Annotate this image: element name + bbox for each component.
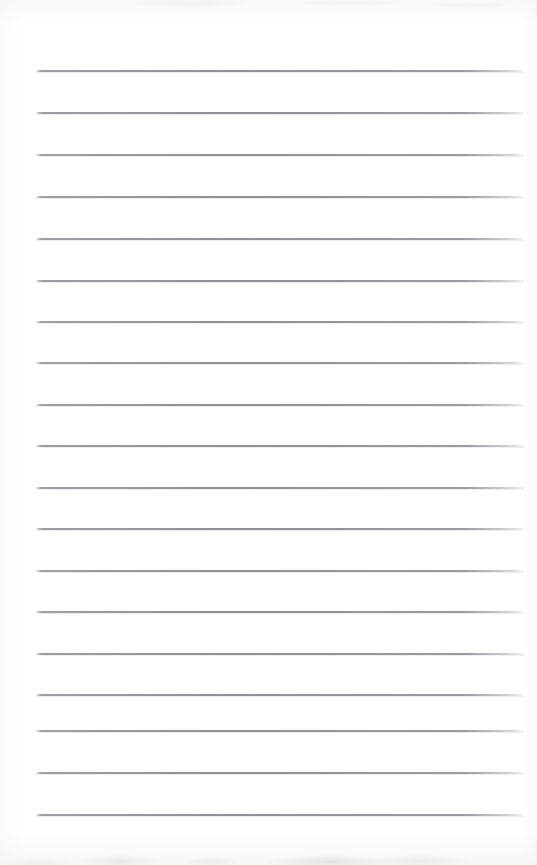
ruled-line: [36, 611, 524, 613]
ruled-line: [36, 70, 524, 72]
ruled-line: [36, 196, 524, 198]
ruled-line: [36, 321, 524, 323]
ruled-line: [36, 772, 524, 774]
ruled-line: [36, 112, 524, 114]
ruled-line: [36, 528, 524, 530]
ruled-line: [36, 730, 524, 732]
ruled-line: [36, 280, 524, 282]
ruled-line: [36, 653, 524, 655]
ruled-line: [36, 154, 524, 156]
ruled-line: [36, 814, 524, 816]
ruled-line: [36, 445, 524, 447]
ruled-line: [36, 570, 524, 572]
ruled-line: [36, 404, 524, 406]
ruled-line: [36, 238, 524, 240]
ruled-lines-container: [0, 0, 537, 865]
ruled-line: [36, 487, 524, 489]
ruled-line: [36, 362, 524, 364]
notepad-page: [0, 0, 537, 865]
ruled-line: [36, 694, 524, 696]
